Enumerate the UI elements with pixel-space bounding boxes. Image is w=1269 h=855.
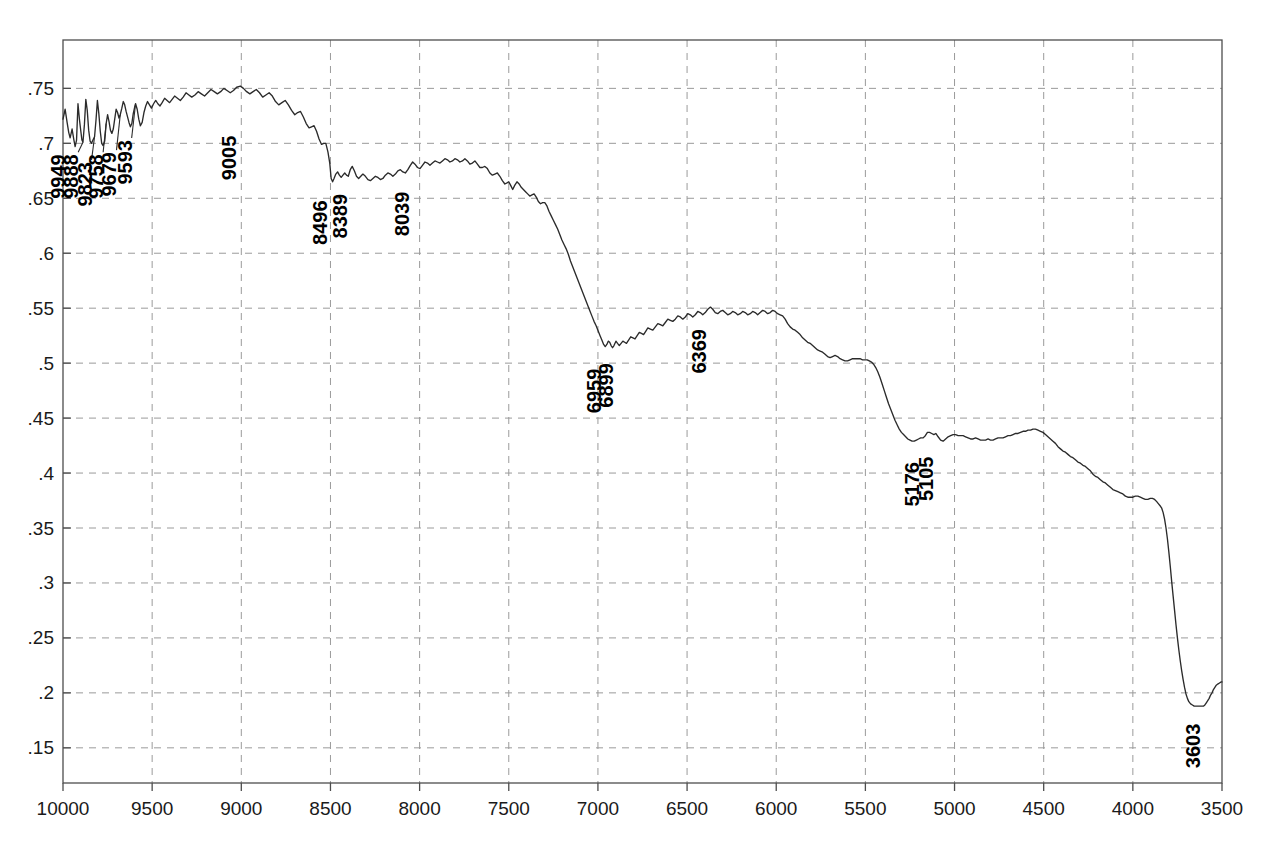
- x-tick-label: 9000: [220, 798, 262, 819]
- x-tick-label: 9500: [131, 798, 173, 819]
- x-tick-label: 8000: [398, 798, 440, 819]
- x-tick-label: 5500: [844, 798, 886, 819]
- x-tick-label: 10000: [37, 798, 90, 819]
- peak-label-9593: 9593: [114, 140, 136, 185]
- y-tick-label: .35: [28, 518, 54, 539]
- x-tick-label: 3500: [1201, 798, 1243, 819]
- y-tick-label: .3: [38, 572, 54, 593]
- x-tick-label: 5000: [933, 798, 975, 819]
- x-tick-label: 6000: [755, 798, 797, 819]
- y-tick-label: .5: [38, 353, 54, 374]
- nir-spectrum-chart: .15.2.25.3.35.4.45.5.55.6.65.7.75 100009…: [0, 0, 1269, 855]
- x-tick-label: 6500: [666, 798, 708, 819]
- peak-label-3603: 3603: [1182, 724, 1204, 769]
- peak-label-8389: 8389: [329, 194, 351, 239]
- y-tick-label: .45: [28, 408, 54, 429]
- x-tick-label: 4000: [1112, 798, 1154, 819]
- x-tick-label: 8500: [309, 798, 351, 819]
- x-tick-label: 7000: [577, 798, 619, 819]
- peak-label-5105: 5105: [915, 457, 937, 502]
- y-tick-label: .55: [28, 298, 54, 319]
- peak-label-6899: 6899: [595, 363, 617, 408]
- spectrum-plot-svg: .15.2.25.3.35.4.45.5.55.6.65.7.75 100009…: [0, 0, 1269, 855]
- y-tick-label: .2: [38, 682, 54, 703]
- peak-label-8039: 8039: [391, 192, 413, 237]
- y-tick-label: .4: [38, 463, 54, 484]
- y-tick-label: .25: [28, 627, 54, 648]
- peak-annotation-layer: 9949988898239758967995939005849683898039…: [47, 104, 1204, 768]
- x-tick-label: 4500: [1023, 798, 1065, 819]
- x-tick-label: 7500: [488, 798, 530, 819]
- y-tick-label: .15: [28, 737, 54, 758]
- peak-leader-line: [103, 124, 106, 153]
- peak-label-6369: 6369: [688, 329, 710, 374]
- x-axis-ticks: 1000095009000850080007500700065006000550…: [37, 783, 1244, 819]
- y-tick-label: .6: [38, 243, 54, 264]
- peak-label-9005: 9005: [218, 136, 240, 181]
- y-tick-label: .75: [28, 78, 54, 99]
- y-tick-label: .7: [38, 133, 54, 154]
